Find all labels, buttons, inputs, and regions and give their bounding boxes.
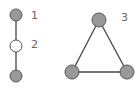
label-1: 1 [31, 9, 38, 22]
label-2: 2 [31, 38, 38, 51]
edge-tri-right [99, 20, 127, 72]
node-bottom-filled [10, 70, 22, 82]
label-3: 3 [121, 11, 128, 24]
node-tri-left [65, 65, 79, 79]
graph-diagram: 1 2 3 [0, 0, 139, 89]
node-middle-empty [10, 40, 22, 52]
node-tri-right [120, 65, 134, 79]
edge-tri-left [72, 20, 99, 72]
node-tri-top [92, 13, 106, 27]
node-top-filled [10, 9, 22, 21]
